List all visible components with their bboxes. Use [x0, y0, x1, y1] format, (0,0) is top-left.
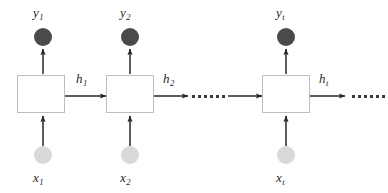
hidden-label-2: h2 [163, 72, 174, 85]
output-label-2: y2 [120, 6, 130, 19]
rnn-diagram: y1 x1 h1 y2 x2 h2 yt xt ht [0, 0, 388, 193]
input-label-1: x1 [33, 171, 43, 184]
output-node-1 [34, 28, 52, 46]
rnn-cell-t [262, 75, 310, 113]
rnn-cell-1 [17, 75, 65, 113]
input-label-t: xt [276, 171, 285, 184]
output-node-t [277, 28, 295, 46]
ellipsis-trailing [352, 95, 385, 98]
rnn-cell-2 [106, 75, 154, 113]
input-node-t [277, 146, 295, 164]
hidden-label-t: ht [319, 72, 328, 85]
input-node-1 [34, 146, 52, 164]
ellipsis-middle [192, 95, 225, 98]
output-node-2 [121, 28, 139, 46]
output-label-t: yt [276, 6, 285, 19]
hidden-label-1: h1 [76, 72, 87, 85]
input-node-2 [121, 146, 139, 164]
input-label-2: x2 [120, 171, 130, 184]
output-label-1: y1 [33, 6, 43, 19]
